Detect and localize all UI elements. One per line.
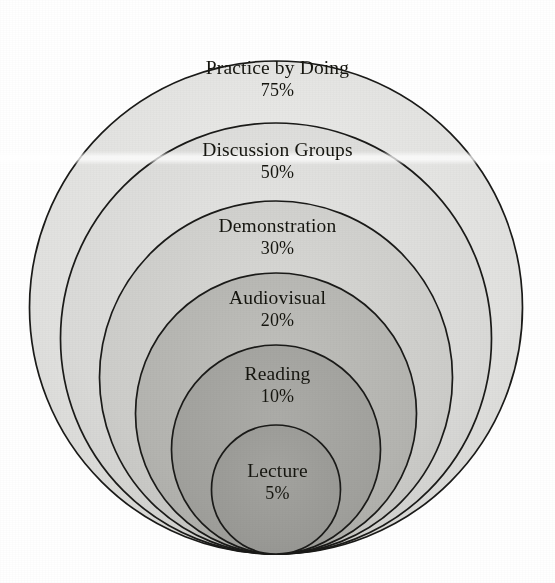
ring-label-audiovisual: Audiovisual 20% — [0, 288, 555, 330]
ring-title-demonstration: Demonstration — [0, 216, 555, 236]
ring-label-lecture: Lecture 5% — [0, 461, 555, 503]
ring-percent-demonstration: 30% — [0, 239, 555, 258]
ring-title-practice-by-doing: Practice by Doing — [0, 58, 555, 78]
ring-title-discussion-groups: Discussion Groups — [0, 140, 555, 160]
cone-of-learning-diagram: Practice by Doing 75% Discussion Groups … — [0, 0, 555, 583]
ring-percent-lecture: 5% — [0, 484, 555, 503]
ring-label-practice-by-doing: Practice by Doing 75% — [0, 58, 555, 100]
ring-title-audiovisual: Audiovisual — [0, 288, 555, 308]
ring-label-discussion-groups: Discussion Groups 50% — [0, 140, 555, 182]
ring-label-demonstration: Demonstration 30% — [0, 216, 555, 258]
ring-percent-reading: 10% — [0, 387, 555, 406]
ring-title-reading: Reading — [0, 364, 555, 384]
ring-percent-audiovisual: 20% — [0, 311, 555, 330]
ring-label-reading: Reading 10% — [0, 364, 555, 406]
ring-percent-practice-by-doing: 75% — [0, 81, 555, 100]
ring-title-lecture: Lecture — [0, 461, 555, 481]
ring-percent-discussion-groups: 50% — [0, 163, 555, 182]
